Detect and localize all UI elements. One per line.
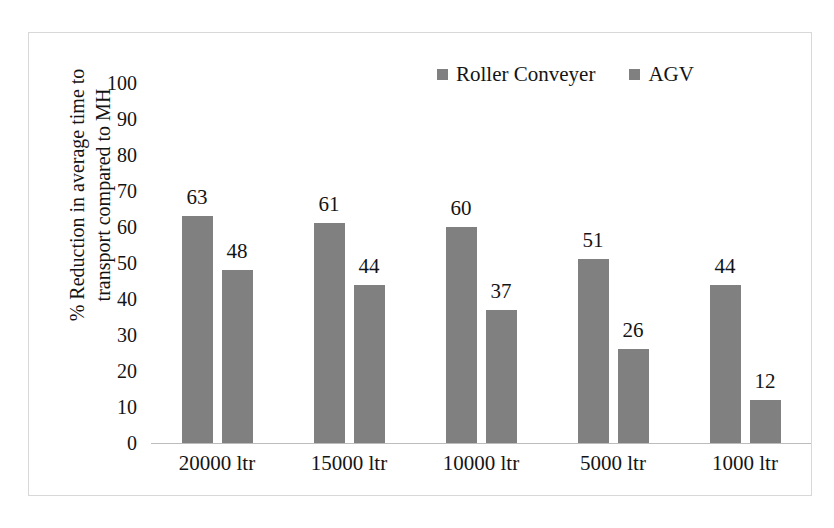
y-tick-10: 10 (77, 397, 137, 417)
legend-label-agv: AGV (648, 64, 694, 85)
legend-item-agv[interactable]: AGV (629, 64, 694, 85)
y-tick-40: 40 (77, 289, 137, 309)
bar-roller-conveyer[interactable] (578, 259, 609, 443)
bar-value-label: 37 (491, 281, 512, 302)
bar-group-5000-ltr: 51 26 (547, 83, 679, 443)
legend-item-roller-conveyer[interactable]: Roller Conveyer (437, 64, 595, 85)
bar-roller-conveyer[interactable] (182, 216, 213, 443)
x-tick-10000-ltr: 10000 ltr (415, 451, 547, 475)
x-tick-5000-ltr: 5000 ltr (547, 451, 679, 475)
y-tick-60: 60 (77, 217, 137, 237)
bar-wrap-roller-conveyer: 60 (446, 83, 477, 443)
bar-agv[interactable] (486, 310, 517, 443)
legend-swatch-icon (437, 69, 448, 80)
bar-value-label: 61 (319, 194, 340, 215)
bar-wrap-roller-conveyer: 44 (710, 83, 741, 443)
bar-value-label: 44 (715, 256, 736, 277)
bar-value-label: 60 (451, 198, 472, 219)
bar-wrap-roller-conveyer: 61 (314, 83, 345, 443)
bar-wrap-roller-conveyer: 51 (578, 83, 609, 443)
y-tick-70: 70 (77, 181, 137, 201)
bar-group-20000-ltr: 63 48 (151, 83, 283, 443)
y-tick-0: 0 (77, 433, 137, 453)
bar-roller-conveyer[interactable] (446, 227, 477, 443)
y-tick-90: 90 (77, 109, 137, 129)
bar-agv[interactable] (354, 285, 385, 443)
bar-wrap-agv: 26 (618, 83, 649, 443)
bar-roller-conveyer[interactable] (314, 223, 345, 443)
y-tick-20: 20 (77, 361, 137, 381)
bar-wrap-agv: 48 (222, 83, 253, 443)
x-tick-1000-ltr: 1000 ltr (679, 451, 811, 475)
bar-wrap-roller-conveyer: 63 (182, 83, 213, 443)
legend-swatch-icon (629, 69, 640, 80)
bar-value-label: 26 (623, 320, 644, 341)
y-tick-30: 30 (77, 325, 137, 345)
bar-value-label: 44 (359, 256, 380, 277)
bar-group-1000-ltr: 44 12 (679, 83, 811, 443)
bar-agv[interactable] (618, 349, 649, 443)
y-tick-80: 80 (77, 145, 137, 165)
bar-value-label: 63 (187, 187, 208, 208)
bar-wrap-agv: 12 (750, 83, 781, 443)
legend-label-roller-conveyer: Roller Conveyer (456, 64, 595, 85)
x-tick-15000-ltr: 15000 ltr (283, 451, 415, 475)
y-tick-100: 100 (77, 73, 137, 93)
plot-area: 100 90 80 70 60 50 40 30 20 10 0 63 48 6… (151, 83, 811, 443)
bar-agv[interactable] (222, 270, 253, 443)
x-axis-line (151, 443, 811, 444)
y-tick-50: 50 (77, 253, 137, 273)
bar-agv[interactable] (750, 400, 781, 443)
chart-frame: Roller Conveyer AGV % Reduction in avera… (28, 32, 812, 496)
bar-wrap-agv: 37 (486, 83, 517, 443)
bar-wrap-agv: 44 (354, 83, 385, 443)
bar-group-10000-ltr: 60 37 (415, 83, 547, 443)
x-tick-20000-ltr: 20000 ltr (151, 451, 283, 475)
bar-group-15000-ltr: 61 44 (283, 83, 415, 443)
bar-value-label: 51 (583, 230, 604, 251)
bar-roller-conveyer[interactable] (710, 285, 741, 443)
bar-value-label: 12 (755, 371, 776, 392)
bar-value-label: 48 (227, 241, 248, 262)
